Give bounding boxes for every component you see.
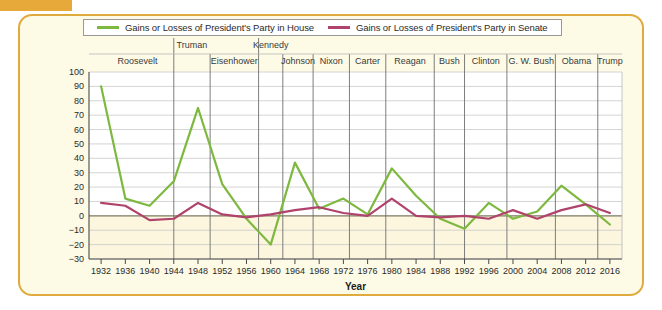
president-label: Trump [597, 56, 623, 66]
x-axis-tick-label: 1956 [236, 266, 256, 276]
x-axis-tick-label: 1992 [455, 266, 475, 276]
president-label: G. W. Bush [508, 56, 554, 66]
y-axis-tick-label: 80 [20, 96, 84, 106]
x-axis-tick-label: 2008 [551, 266, 571, 276]
x-axis-tick-label: 1984 [406, 266, 426, 276]
y-axis-tick-label: −10 [20, 225, 84, 235]
president-label: Eisenhower [211, 56, 258, 66]
president-label: Bush [439, 56, 460, 66]
president-label: Truman [177, 40, 208, 50]
president-label: Johnson [281, 56, 315, 66]
x-axis-tick-label: 1936 [115, 266, 135, 276]
y-axis-tick-label: 50 [20, 139, 84, 149]
president-label: Nixon [320, 56, 343, 66]
corner-color-tag [0, 0, 72, 11]
x-axis-title: Year [345, 281, 366, 292]
x-axis-tick-label: 1972 [333, 266, 353, 276]
chart-card: Gains or Losses of President's Party in … [18, 14, 644, 296]
x-axis-tick-label: 1996 [479, 266, 499, 276]
president-label: Clinton [472, 56, 500, 66]
y-axis-tick-label: 100 [20, 67, 84, 77]
x-axis-tick-label: 1932 [91, 266, 111, 276]
x-axis-tick-label: 1968 [309, 266, 329, 276]
y-axis-tick-label: 0 [20, 211, 84, 221]
plot-area: RooseveltTrumanEisenhowerKennedyJohnsonN… [20, 16, 646, 298]
president-label: Carter [355, 56, 380, 66]
x-axis-tick-label: 2016 [600, 266, 620, 276]
x-axis-tick-label: 1988 [430, 266, 450, 276]
x-axis-tick-label: 1944 [164, 266, 184, 276]
y-axis-tick-label: 10 [20, 196, 84, 206]
president-label: Kennedy [253, 40, 289, 50]
x-axis-tick-label: 1952 [212, 266, 232, 276]
y-axis-tick-label: 70 [20, 110, 84, 120]
president-label: Roosevelt [117, 56, 157, 66]
y-axis-tick-label: 30 [20, 168, 84, 178]
y-axis-tick-label: −20 [20, 240, 84, 250]
president-label: Obama [562, 56, 592, 66]
y-axis-tick-label: 20 [20, 182, 84, 192]
president-label: Reagan [394, 56, 426, 66]
x-axis-tick-label: 2000 [503, 266, 523, 276]
y-axis-tick-label: 40 [20, 153, 84, 163]
x-axis-tick-label: 1960 [261, 266, 281, 276]
x-axis-tick-label: 1940 [140, 266, 160, 276]
x-axis-tick-label: 1964 [285, 266, 305, 276]
x-axis-tick-label: 2012 [576, 266, 596, 276]
x-axis-tick-label: 1948 [188, 266, 208, 276]
x-axis-tick-label: 1976 [358, 266, 378, 276]
x-axis-tick-label: 2004 [527, 266, 547, 276]
y-axis-tick-label: −30 [20, 254, 84, 264]
x-axis-tick-label: 1980 [382, 266, 402, 276]
y-axis-tick-label: 90 [20, 81, 84, 91]
y-axis-tick-label: 60 [20, 125, 84, 135]
